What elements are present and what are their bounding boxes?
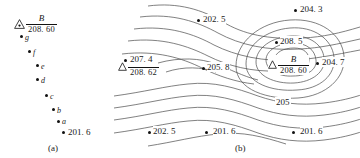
benchmark-b-elevation: 208. 60: [26, 25, 57, 34]
spot-height-202-5-top: 202. 5: [203, 14, 226, 24]
survey-point-label-e: e: [41, 62, 45, 71]
triangle-benchmark-icon: [118, 62, 127, 71]
benchmark-b2-fraction: B 208. 60: [278, 55, 309, 75]
spot-height-202-5-bottom: 202. 5: [153, 126, 176, 136]
survey-point-dot: [62, 131, 65, 134]
survey-point-value-201-6: 201. 6: [68, 127, 91, 137]
survey-point-label-a: a: [62, 117, 66, 126]
survey-point-label-f: f: [33, 48, 35, 57]
survey-point-dot: [28, 50, 31, 53]
survey-point-dot: [52, 108, 55, 111]
benchmark-b-fraction: B 208. 60: [26, 14, 57, 34]
spot-height-204-7: 204. 7: [322, 57, 345, 67]
benchmark-b-label-b: B 208. 60: [268, 55, 309, 75]
panel-a: B 208. 60 g f e d c b a 201. 6 (a): [0, 0, 120, 158]
spot-height-207-4: 207. 4: [130, 54, 153, 64]
survey-point-label-g: g: [25, 33, 29, 42]
survey-point-dot: [20, 35, 23, 38]
spot-height-201-6-center: 201. 6: [213, 126, 236, 136]
survey-point-label-d: d: [41, 76, 45, 85]
panel-a-caption: (a): [48, 143, 58, 153]
survey-point-dot: [45, 94, 48, 97]
benchmark-a-elevation: 208. 62: [128, 68, 159, 77]
survey-point-dot: [36, 64, 39, 67]
benchmark-b2-elevation: 208. 60: [278, 66, 309, 75]
triangle-benchmark-icon: [14, 19, 25, 29]
figure-container: B 208. 60 g f e d c b a 201. 6 (a): [0, 0, 360, 158]
spot-height-205-8: 205. 8: [207, 62, 230, 72]
panel-b: A 208. 62 B 208. 60 202. 5 204. 3 207.: [118, 0, 360, 158]
spot-height-208-5: 208. 5: [280, 36, 303, 46]
survey-point-label-b: b: [57, 106, 61, 115]
survey-point-dot: [36, 78, 39, 81]
benchmark-b-label-a: B 208. 60: [14, 14, 57, 34]
benchmark-b-name: B: [26, 14, 57, 23]
benchmark-b2-name: B: [278, 55, 309, 64]
triangle-benchmark-icon: [268, 60, 277, 69]
contour-label-205: 205: [275, 97, 291, 107]
spot-height-201-6-right: 201. 6: [300, 126, 323, 136]
survey-point-dot: [57, 120, 60, 123]
panel-b-caption: (b): [235, 143, 246, 153]
survey-point-label-c: c: [50, 92, 54, 101]
spot-height-204-3: 204. 3: [300, 4, 323, 14]
